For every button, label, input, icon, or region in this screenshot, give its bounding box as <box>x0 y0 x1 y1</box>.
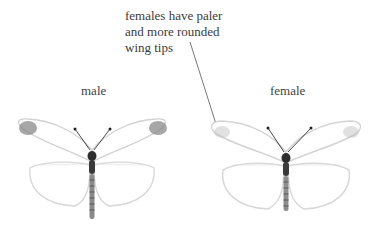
female-right-wingtip-mark <box>343 126 359 138</box>
butterfly-comparison-diagram: females have paler and more rounded wing… <box>0 0 386 235</box>
male-right-wingtip-mark <box>149 121 167 135</box>
female-left-wingtip-mark <box>214 126 230 138</box>
female-butterfly-illustration <box>211 121 360 211</box>
leader-line <box>190 42 219 127</box>
male-butterfly-illustration <box>19 119 167 219</box>
male-left-wingtip-mark <box>19 121 37 135</box>
illustration-layer <box>0 0 386 235</box>
